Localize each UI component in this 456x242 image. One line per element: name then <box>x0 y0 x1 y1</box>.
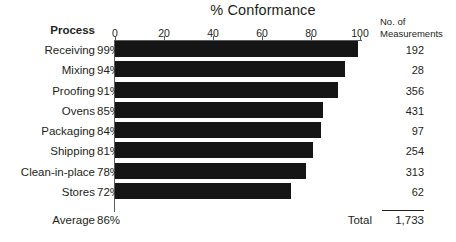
bar <box>115 122 321 138</box>
bar-row: Receiving99%192 <box>0 41 456 61</box>
row-measurement-count: 313 <box>380 166 424 178</box>
row-value-percent: 91% <box>97 85 114 97</box>
conformance-chart: % Conformance Process No. of Measurement… <box>0 0 456 242</box>
bar <box>115 82 338 98</box>
bar <box>115 41 358 57</box>
row-measurement-count: 254 <box>380 145 424 157</box>
row-value-percent: 78% <box>97 166 114 178</box>
row-measurement-count: 192 <box>380 44 424 56</box>
bar-row: Packaging84%97 <box>0 122 456 142</box>
bar <box>115 61 345 77</box>
total-value: 1,733 <box>380 214 424 226</box>
row-measurement-count: 356 <box>380 85 424 97</box>
bar-row: Stores72%62 <box>0 183 456 203</box>
chart-title: % Conformance <box>150 2 376 18</box>
bar-row: Ovens85%431 <box>0 102 456 122</box>
row-value-percent: 81% <box>97 145 114 157</box>
x-axis-tick-labels: 020406080100 <box>0 27 456 40</box>
row-value-percent: 99% <box>97 44 114 56</box>
row-label-process: Packaging <box>0 125 95 137</box>
bar-row: Shipping81%254 <box>0 142 456 162</box>
row-value-percent: 94% <box>97 64 114 76</box>
bar <box>115 142 313 158</box>
x-axis-tick-60 <box>262 36 263 40</box>
bar <box>115 183 291 199</box>
row-measurement-count: 431 <box>380 105 424 117</box>
row-label-process: Mixing <box>0 64 95 76</box>
row-label-process: Receiving <box>0 44 95 56</box>
bar-rows: Receiving99%192Mixing94%28Proofing91%356… <box>0 41 456 203</box>
bar-row: Clean-in-place78%313 <box>0 163 456 183</box>
bar-row: Proofing91%356 <box>0 82 456 102</box>
row-value-percent: 84% <box>97 125 114 137</box>
x-axis-tick-100 <box>360 36 361 40</box>
x-axis-tick-40 <box>213 36 214 40</box>
bar <box>115 102 323 118</box>
bar <box>115 163 306 179</box>
x-axis-tick-0 <box>115 36 116 40</box>
row-label-process: Clean-in-place <box>0 166 95 178</box>
row-measurement-count: 28 <box>380 64 424 76</box>
measurements-header-line-1: No. of <box>380 16 456 28</box>
x-axis-tick-80 <box>311 36 312 40</box>
row-measurement-count: 97 <box>380 125 424 137</box>
row-label-process: Ovens <box>0 105 95 117</box>
average-value: 86% <box>97 214 117 226</box>
row-label-process: Stores <box>0 186 95 198</box>
x-axis-tick-20 <box>164 36 165 40</box>
bar-row: Mixing94%28 <box>0 61 456 81</box>
row-label-process: Shipping <box>0 145 95 157</box>
row-value-percent: 72% <box>97 186 114 198</box>
row-measurement-count: 62 <box>380 186 424 198</box>
total-label: Total <box>326 214 372 226</box>
average-label: Average <box>0 214 95 226</box>
row-value-percent: 85% <box>97 105 114 117</box>
total-rule <box>382 210 424 211</box>
row-label-process: Proofing <box>0 85 95 97</box>
